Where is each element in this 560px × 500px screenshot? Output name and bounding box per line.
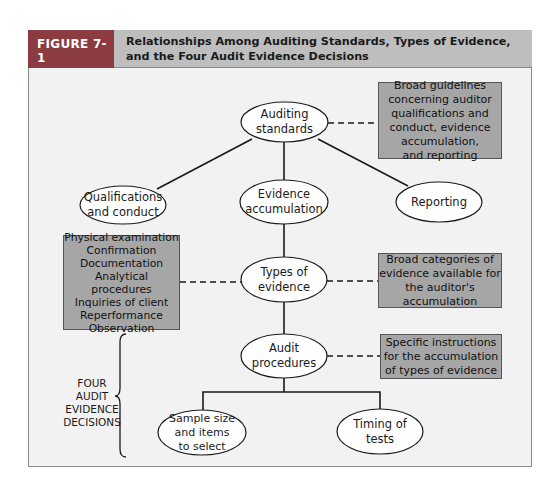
node-timing-of-tests: Timing of tests <box>337 409 423 454</box>
node-label: Auditing standards <box>256 107 313 137</box>
four-audit-evidence-decisions-label: FOUR AUDIT EVIDENCE DECISIONS <box>52 377 132 429</box>
box-text: Broad guidelines concerning auditor qual… <box>388 79 492 163</box>
node-label: Types of evidence <box>258 265 310 295</box>
box-text: Physical examination Confirmation Docume… <box>64 231 179 335</box>
evidence-types-list-box: Physical examination Confirmation Docume… <box>63 235 180 330</box>
box-text: Specific instructions for the accumulati… <box>384 336 499 378</box>
node-evidence-accumulation: Evidence accumulation <box>240 180 328 224</box>
node-audit-procedures: Audit procedures <box>241 334 327 378</box>
node-label: Audit procedures <box>252 341 316 371</box>
node-label: Reporting <box>411 195 467 210</box>
node-label: Sample size and items to select <box>169 412 235 454</box>
standards-note-box: Broad guidelines concerning auditor qual… <box>378 82 502 159</box>
box-text: Broad categories of evidence available f… <box>379 253 501 309</box>
node-sample-size: Sample size and items to select <box>158 410 246 455</box>
node-label: Evidence accumulation <box>245 187 323 217</box>
node-reporting: Reporting <box>396 182 482 222</box>
node-label: Timing of tests <box>353 417 407 447</box>
node-auditing-standards: Auditing standards <box>241 102 328 142</box>
node-types-of-evidence: Types of evidence <box>241 257 327 302</box>
node-label: Qualifications and conduct <box>84 190 162 220</box>
procedures-note-box: Specific instructions for the accumulati… <box>380 334 502 379</box>
node-qualifications-and-conduct: Qualifications and conduct <box>80 186 166 224</box>
types-note-box: Broad categories of evidence available f… <box>378 253 502 308</box>
